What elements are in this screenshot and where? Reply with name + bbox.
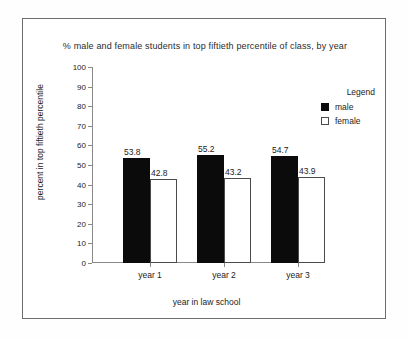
y-tick-label: 20 (77, 219, 86, 228)
legend-label-male: male (335, 102, 353, 112)
legend-label-female: female (335, 116, 361, 126)
bar-male-year-2[interactable]: 55.2 (197, 155, 224, 263)
x-category-label: year 1 (138, 270, 162, 280)
x-category-label: year 3 (286, 270, 310, 280)
y-tick-label: 80 (77, 102, 86, 111)
y-tick-mark (88, 185, 92, 186)
y-tick-mark (88, 263, 92, 264)
legend-title: Legend (311, 87, 387, 97)
bar-male-year-1[interactable]: 53.8 (123, 158, 150, 263)
y-tick-mark (88, 67, 92, 68)
bar-value-label: 43.2 (225, 167, 242, 177)
x-tick-mark (224, 263, 225, 267)
bar-value-label: 43.9 (299, 166, 316, 176)
y-tick-label: 100 (73, 63, 86, 72)
y-tick-label: 50 (77, 161, 86, 170)
y-axis-line (92, 67, 93, 263)
legend-entries: malefemale (311, 102, 387, 126)
y-tick-label: 90 (77, 82, 86, 91)
plot-area: 1009080706050403020100 53.842.855.243.25… (92, 67, 321, 263)
y-tick-label: 30 (77, 200, 86, 209)
y-tick-mark (88, 106, 92, 107)
y-tick-mark (88, 204, 92, 205)
y-tick-mark (88, 224, 92, 225)
y-axis-title: percent in top fiftieth percentile (35, 62, 45, 222)
y-tick-mark (88, 126, 92, 127)
chart-title: % male and female students in top fiftie… (23, 41, 387, 51)
y-tick-mark (88, 145, 92, 146)
bar-value-label: 53.8 (124, 147, 141, 157)
bar-female-year-1[interactable]: 42.8 (150, 179, 177, 263)
y-tick-mark (88, 165, 92, 166)
y-tick-mark (88, 87, 92, 88)
bar-male-year-3[interactable]: 54.7 (271, 156, 298, 263)
x-axis-title: year in law school (92, 297, 321, 307)
y-tick-label: 60 (77, 141, 86, 150)
chart-canvas: % male and female students in top fiftie… (0, 0, 408, 340)
legend-swatch-female (321, 117, 329, 125)
y-tick-label: 0 (82, 259, 86, 268)
legend-swatch-male (321, 103, 329, 111)
y-tick-mark (88, 243, 92, 244)
y-tick-label: 40 (77, 180, 86, 189)
bar-value-label: 54.7 (272, 145, 289, 155)
bar-value-label: 55.2 (198, 144, 215, 154)
y-tick-label: 70 (77, 121, 86, 130)
bar-female-year-3[interactable]: 43.9 (298, 177, 325, 263)
y-tick-label: 10 (77, 239, 86, 248)
chart-frame: % male and female students in top fiftie… (22, 18, 386, 319)
x-category-label: year 2 (212, 270, 236, 280)
bar-value-label: 42.8 (151, 168, 168, 178)
legend-item-female[interactable]: female (311, 116, 387, 126)
bar-female-year-2[interactable]: 43.2 (224, 178, 251, 263)
legend: Legend malefemale (311, 87, 387, 130)
x-tick-mark (298, 263, 299, 267)
x-tick-mark (150, 263, 151, 267)
legend-item-male[interactable]: male (311, 102, 387, 112)
